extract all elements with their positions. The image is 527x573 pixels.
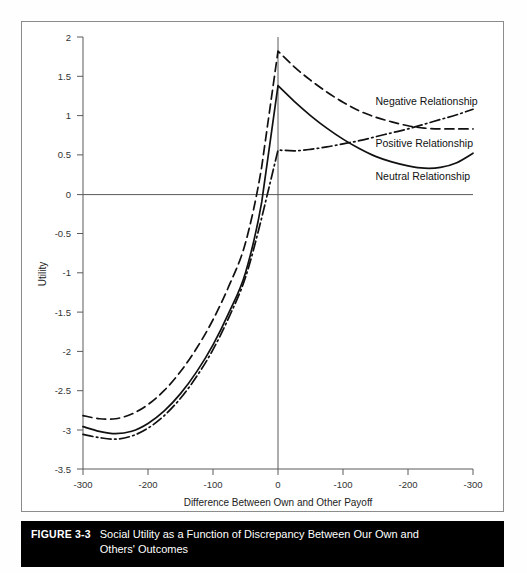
y-axis-ticks xyxy=(77,37,83,469)
y-tick-label: 1.5 xyxy=(58,71,71,82)
x-tick-label: -300 xyxy=(463,479,482,490)
y-tick-label: 1 xyxy=(66,110,71,121)
y-tick-label: -1 xyxy=(63,267,71,278)
x-tick-label: -100 xyxy=(333,479,352,490)
y-tick-label: -0.5 xyxy=(55,228,71,239)
x-tick-label: -300 xyxy=(73,479,92,490)
x-tick-label: -200 xyxy=(398,479,417,490)
series-label-negative-relationship: Negative Relationship xyxy=(376,95,478,107)
x-tick-label: -100 xyxy=(203,479,222,490)
figure-number-label: FIGURE 3-3 xyxy=(31,527,91,540)
series-label-positive-relationship: Positive Relationship xyxy=(376,137,474,149)
y-tick-label: -3.5 xyxy=(55,464,71,475)
y-tick-label: 2 xyxy=(66,32,71,43)
figure-caption-bar: FIGURE 3-3 Social Utility as a Function … xyxy=(21,521,504,567)
series-label-neutral-relationship: Neutral Relationship xyxy=(376,170,471,182)
y-axis-tick-labels: 2 1.5 1 0.5 0 -0.5 -1 -1.5 -2 -2.5 -3 -3… xyxy=(55,32,71,475)
x-axis-title: Difference Between Own and Other Payoff xyxy=(184,497,373,508)
y-tick-label: 0 xyxy=(66,189,71,200)
x-tick-label: 0 xyxy=(275,479,280,490)
figure-page: 2 1.5 1 0.5 0 -0.5 -1 -1.5 -2 -2.5 -3 -3… xyxy=(0,0,527,573)
y-tick-label: -2.5 xyxy=(55,385,71,396)
chart-panel: 2 1.5 1 0.5 0 -0.5 -1 -1.5 -2 -2.5 -3 -3… xyxy=(21,21,504,512)
y-axis-title: Utility xyxy=(37,262,48,286)
y-tick-label: -3 xyxy=(63,425,71,436)
x-tick-label: -200 xyxy=(138,479,157,490)
social-utility-line-chart: 2 1.5 1 0.5 0 -0.5 -1 -1.5 -2 -2.5 -3 -3… xyxy=(22,22,503,511)
figure-caption-text: Social Utility as a Function of Discrepa… xyxy=(100,527,450,556)
y-tick-label: -2 xyxy=(63,346,71,357)
x-axis-tick-labels: -300 -200 -100 0 -100 -200 -300 xyxy=(73,479,482,490)
x-axis-ticks xyxy=(83,469,473,475)
y-tick-label: 0.5 xyxy=(58,149,71,160)
y-tick-label: -1.5 xyxy=(55,307,71,318)
